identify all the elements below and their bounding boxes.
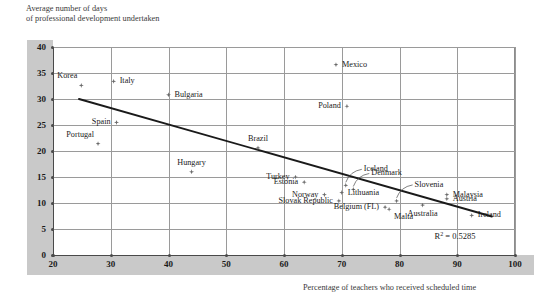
data-point-label: Spain xyxy=(92,118,111,127)
data-point-label: Poland xyxy=(318,102,341,111)
r-squared-annotation: R2 = 0.5285 xyxy=(434,231,475,242)
data-point-label: Lithuania xyxy=(348,188,379,197)
data-point-label: Belgium (FL) xyxy=(334,203,379,212)
chart-canvas: Average number of days of professional d… xyxy=(0,0,554,299)
data-point-label: Hungary xyxy=(177,159,206,168)
data-point-label: Denmark xyxy=(371,169,401,178)
label-leader-line xyxy=(0,0,554,299)
data-point-label: Bulgaria xyxy=(175,91,203,100)
data-point-label: Mexico xyxy=(342,60,367,69)
data-point-label: Italy xyxy=(120,77,135,86)
data-point-label: Australia xyxy=(408,210,438,219)
data-point-label: Slovenia xyxy=(415,181,444,190)
data-point-label: Ireland xyxy=(478,211,501,220)
data-point-label: Portugal xyxy=(66,130,94,139)
data-point-label: Korea xyxy=(57,72,77,81)
data-point-label: Austria xyxy=(453,195,477,204)
data-point-label: Brazil xyxy=(248,135,268,144)
x-axis-title: Percentage of teachers who received sche… xyxy=(303,283,476,293)
data-point-label: Slovak Republic xyxy=(279,197,333,206)
data-point-label: Estonia xyxy=(274,178,299,187)
